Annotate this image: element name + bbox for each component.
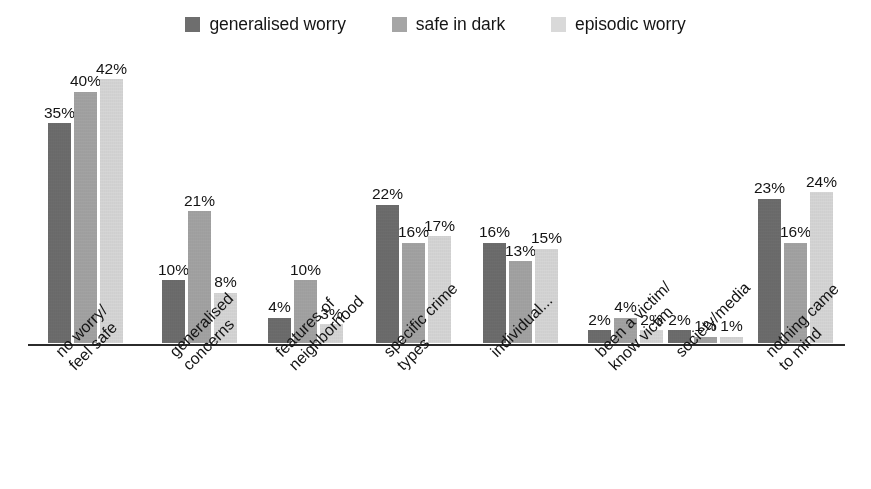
bar-value-label: 16% <box>479 224 510 240</box>
bar-column: 42% <box>100 59 123 343</box>
legend-swatch-icon <box>392 17 407 32</box>
bar[interactable]: 16% <box>483 243 506 343</box>
bar-value-label: 21% <box>184 193 215 209</box>
legend-item-safe-in-dark: safe in dark <box>392 14 505 35</box>
bar-value-label: 23% <box>754 180 785 196</box>
bar-value-label: 16% <box>780 224 811 240</box>
bar-column: 4% <box>268 59 291 343</box>
legend-swatch-icon <box>185 17 200 32</box>
bar-value-label: 24% <box>806 174 837 190</box>
legend-item-generalised-worry: generalised worry <box>185 14 345 35</box>
bar-column: 10% <box>162 59 185 343</box>
bar-value-label: 17% <box>424 218 455 234</box>
bar-value-label: 2% <box>588 312 610 328</box>
bar[interactable]: 35% <box>48 123 71 343</box>
x-axis-category-labels: no worry/feel safegeneralisedconcernsfea… <box>28 348 845 489</box>
bar-column: 16% <box>402 59 425 343</box>
legend-item-episodic-worry: episodic worry <box>551 14 685 35</box>
legend-label: generalised worry <box>209 14 345 35</box>
bar-value-label: 22% <box>372 186 403 202</box>
bar-chart: generalised worry safe in dark episodic … <box>0 0 871 489</box>
bar-value-label: 42% <box>96 61 127 77</box>
bar-value-label: 35% <box>44 105 75 121</box>
legend-label: safe in dark <box>416 14 505 35</box>
bar-value-label: 4% <box>268 299 290 315</box>
bar-value-label: 8% <box>214 274 236 290</box>
bar-column: 16% <box>784 59 807 343</box>
legend-swatch-icon <box>551 17 566 32</box>
bar-column: 40% <box>74 59 97 343</box>
bar-column: 4% <box>614 59 637 343</box>
bar-column: 13% <box>509 59 532 343</box>
bar[interactable]: 23% <box>758 199 781 343</box>
bar-column: 35% <box>48 59 71 343</box>
bar[interactable]: 1% <box>720 337 743 343</box>
bar-column: 10% <box>294 59 317 343</box>
bar[interactable]: 22% <box>376 205 399 343</box>
bar-column: 1% <box>694 59 717 343</box>
bar-column: 21% <box>188 59 211 343</box>
bar-value-label: 15% <box>531 230 562 246</box>
bar-column: 22% <box>376 59 399 343</box>
legend-label: episodic worry <box>575 14 685 35</box>
bar-value-label: 10% <box>158 262 189 278</box>
bar[interactable]: 42% <box>100 79 123 343</box>
bar-column: 23% <box>758 59 781 343</box>
bar-column: 16% <box>483 59 506 343</box>
bar-column: 2% <box>588 59 611 343</box>
chart-legend: generalised worry safe in dark episodic … <box>0 14 871 35</box>
bar-group: 35%40%42% <box>48 59 123 343</box>
bar-value-label: 10% <box>290 262 321 278</box>
